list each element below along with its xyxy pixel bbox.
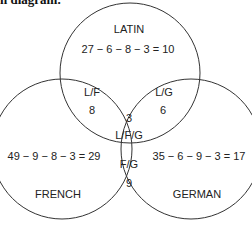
latin-title: LATIN (114, 23, 144, 35)
lg-value: 6 (160, 104, 166, 116)
latin-calculation: 27 − 6 − 8 − 3 = 10 (82, 43, 175, 55)
french-title: FRENCH (35, 188, 81, 200)
lf-value: 8 (89, 104, 95, 116)
lg-title: L/G (155, 86, 173, 98)
german-calculation: 35 − 6 − 9 − 3 = 17 (153, 150, 246, 162)
french-calculation: 49 − 9 − 8 − 3 = 29 (8, 150, 101, 162)
fg-value: 9 (126, 177, 132, 189)
german-title: GERMAN (173, 188, 221, 200)
fg-title: F/G (120, 158, 138, 170)
lf-title: L/F (84, 86, 100, 98)
lfg-title: L/F/G (115, 129, 143, 141)
lfg-value: 3 (126, 112, 132, 124)
